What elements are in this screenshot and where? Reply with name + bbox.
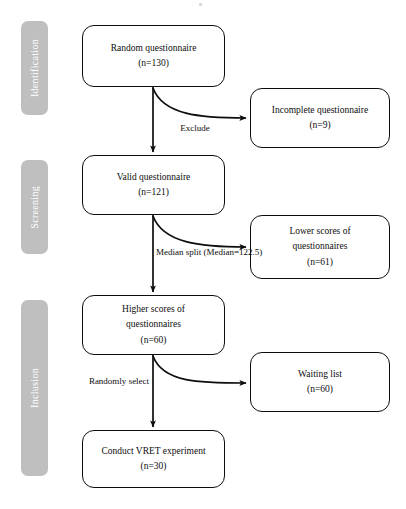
node-line: questionnaires — [293, 239, 348, 254]
arrow-higher-to-waiting — [153, 356, 246, 383]
stage-bar-identification: Identification — [21, 21, 48, 115]
node-line: (n=60) — [141, 333, 167, 348]
node-line: Lower scores of — [289, 224, 350, 239]
node-line: (n=61) — [307, 255, 333, 270]
node-higher-scores[interactable]: Higher scores of questionnaires (n=60) — [82, 295, 225, 355]
node-line: Waiting list — [298, 367, 342, 382]
stage-bar-screening: Screening — [21, 160, 48, 254]
node-incomplete-questionnaire[interactable]: Incomplete questionnaire (n=9) — [250, 88, 390, 148]
node-line: (n=30) — [141, 459, 167, 474]
edge-label-exclude: Exclude — [160, 121, 230, 135]
stage-bar-inclusion: Inclusion — [21, 300, 48, 476]
node-valid-questionnaire[interactable]: Valid questionnaire (n=121) — [82, 155, 225, 215]
node-waiting-list[interactable]: Waiting list (n=60) — [250, 352, 390, 412]
node-lower-scores[interactable]: Lower scores of questionnaires (n=61) — [250, 215, 390, 279]
node-line: (n=121) — [138, 185, 169, 200]
node-line: (n=9) — [309, 118, 330, 133]
node-line: (n=130) — [138, 56, 169, 71]
node-line: Higher scores of — [122, 302, 185, 317]
node-line: Incomplete questionnaire — [272, 103, 368, 118]
node-line: Valid questionnaire — [117, 170, 191, 185]
scan-artifact — [199, 3, 202, 6]
flowchart-canvas: Identification Screening Inclusion Rando… — [0, 0, 406, 509]
stage-label-screening: Screening — [29, 186, 40, 229]
edge-label-line: Median split — [156, 247, 201, 257]
edge-label-line: Randomly — [89, 376, 127, 386]
node-random-questionnaire[interactable]: Random questionnaire (n=130) — [82, 25, 225, 87]
edge-label-line: Exclude — [180, 123, 210, 133]
node-line: Conduct VRET experiment — [101, 444, 205, 459]
stage-label-inclusion: Inclusion — [29, 368, 40, 408]
node-line: Random questionnaire — [111, 41, 197, 56]
edge-label-line: (Median=122.5) — [204, 247, 263, 257]
edge-label-randomly-select: Randomly select — [88, 374, 150, 388]
edge-label-median-split: Median split (Median=122.5) — [156, 245, 242, 259]
stage-label-identification: Identification — [29, 39, 40, 97]
arrow-valid-to-lower — [153, 216, 246, 247]
arrow-random-to-incomplete — [153, 88, 246, 118]
node-conduct-vret[interactable]: Conduct VRET experiment (n=30) — [82, 430, 225, 488]
node-line: (n=60) — [307, 382, 333, 397]
node-line: questionnaires — [126, 317, 181, 332]
edge-label-line: select — [129, 376, 150, 386]
